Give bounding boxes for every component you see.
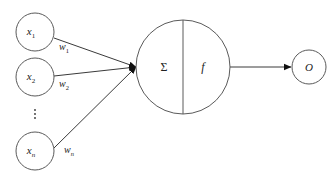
ellipsis-dots bbox=[34, 109, 36, 119]
input-node-x2: x2 bbox=[16, 58, 54, 96]
weight-w2-text: w2 bbox=[59, 78, 69, 91]
neuron-node: Σ f bbox=[136, 20, 230, 114]
weight-w1-subscript: 1 bbox=[66, 47, 69, 54]
weight-w2-subscript: 2 bbox=[66, 84, 69, 91]
input-x2-subscript: 2 bbox=[32, 77, 36, 85]
weight-wn-subscript: n bbox=[71, 150, 74, 157]
input-node-x1: x1 bbox=[16, 13, 54, 51]
perceptron-diagram: x1 x2 xn w1 w2 wn Σ f O bbox=[0, 0, 332, 181]
input-xn-subscript: n bbox=[32, 151, 36, 159]
edge-xn-to-neuron bbox=[54, 67, 136, 148]
sum-symbol: Σ bbox=[161, 60, 168, 74]
output-label: O bbox=[305, 61, 313, 73]
output-node: O bbox=[292, 50, 326, 84]
edge-x2-to-neuron bbox=[54, 67, 136, 76]
input-node-xn: xn bbox=[16, 132, 54, 170]
input-x1-subscript: 1 bbox=[32, 32, 36, 40]
weight-wn-text: wn bbox=[64, 144, 74, 157]
